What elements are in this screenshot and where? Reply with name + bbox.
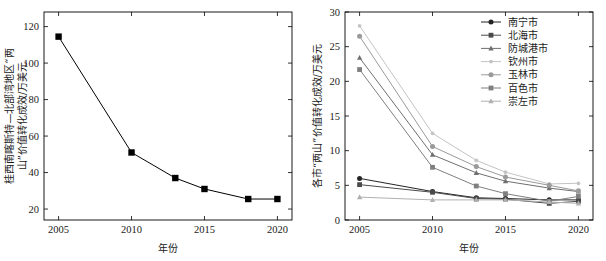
series-line xyxy=(360,70,579,202)
data-point-marker xyxy=(245,196,251,202)
data-point-marker xyxy=(576,194,581,199)
data-point-marker xyxy=(431,131,435,135)
legend-marker xyxy=(489,86,494,91)
y-tick-label: 80 xyxy=(29,94,40,105)
data-point-marker xyxy=(430,190,435,195)
left-x-ticklabels: 2005201020152020 xyxy=(48,224,288,235)
data-point-marker xyxy=(55,33,61,39)
series-line xyxy=(59,37,278,199)
y-tick-label: 15 xyxy=(330,111,341,122)
legend-marker xyxy=(489,60,493,64)
legend-marker xyxy=(489,33,494,38)
right-plot-svg: 051015202530 2005201020152020 年份 各市“两山”价… xyxy=(303,0,606,261)
x-tick-label: 2010 xyxy=(422,224,443,235)
y-tick-label: 10 xyxy=(330,145,341,156)
data-point-marker xyxy=(172,175,178,181)
x-tick-label: 2005 xyxy=(48,224,69,235)
y-tick-label: 30 xyxy=(330,7,341,18)
data-point-marker xyxy=(274,196,280,202)
legend-label: 南宁市 xyxy=(508,16,538,28)
series-2 xyxy=(357,55,581,194)
left-axes xyxy=(44,12,292,220)
series-0 xyxy=(55,33,280,202)
legend-label: 防城港市 xyxy=(508,42,548,54)
x-tick-label: 2015 xyxy=(194,224,215,235)
legend-item-0[interactable]: 南宁市 xyxy=(481,16,538,28)
data-point-marker xyxy=(357,176,362,181)
left-axes-frame xyxy=(44,12,292,220)
right-legend[interactable]: 南宁市北海市防城港市钦州市玉林市百色市崇左市 xyxy=(481,16,548,107)
data-point-marker xyxy=(474,184,479,189)
data-point-marker xyxy=(201,186,207,192)
data-point-marker xyxy=(577,181,581,185)
right-x-ticklabels: 2005201020152020 xyxy=(349,224,589,235)
legend-label: 钦州市 xyxy=(508,55,538,67)
y-tick-label: 40 xyxy=(29,167,40,178)
left-y-axis-title-line1: 桂西南喀斯特—北部湾地区“两 xyxy=(3,48,15,183)
y-tick-label: 60 xyxy=(29,131,40,142)
data-point-marker xyxy=(474,164,479,169)
data-point-marker xyxy=(503,174,508,179)
legend-item-5[interactable]: 百色市 xyxy=(481,82,538,94)
left-x-axis-title: 年份 xyxy=(158,242,178,254)
data-point-marker xyxy=(503,191,508,196)
data-point-marker xyxy=(547,183,552,188)
x-tick-label: 2010 xyxy=(121,224,142,235)
chart-panel-left: 20406080100120 2005201020152020 年份 桂西南喀斯… xyxy=(0,0,303,261)
data-point-marker xyxy=(357,67,362,72)
right-y-ticklabels: 051015202530 xyxy=(330,7,341,226)
left-plot-svg: 20406080100120 2005201020152020 年份 桂西南喀斯… xyxy=(0,0,303,261)
legend-marker xyxy=(488,19,493,24)
data-point-marker xyxy=(576,188,581,193)
series-line xyxy=(360,58,579,192)
x-tick-label: 2020 xyxy=(568,224,589,235)
y-tick-label: 0 xyxy=(335,215,340,226)
data-point-marker xyxy=(357,55,362,60)
figure-canvas: 20406080100120 2005201020152020 年份 桂西南喀斯… xyxy=(0,0,606,261)
right-x-axis-title: 年份 xyxy=(459,242,479,254)
data-point-marker xyxy=(358,24,362,28)
legend-label: 北海市 xyxy=(508,29,538,41)
series-line xyxy=(360,178,579,199)
legend-item-3[interactable]: 钦州市 xyxy=(481,55,538,67)
y-tick-label: 5 xyxy=(335,180,340,191)
legend-marker xyxy=(488,72,493,77)
y-tick-label: 120 xyxy=(23,21,39,32)
x-tick-label: 2020 xyxy=(267,224,288,235)
data-point-marker xyxy=(474,159,478,163)
data-point-marker xyxy=(357,34,362,39)
data-point-marker xyxy=(128,149,134,155)
legend-label: 百色市 xyxy=(508,82,538,94)
legend-item-4[interactable]: 玉林市 xyxy=(481,68,538,80)
chart-panel-right: 051015202530 2005201020152020 年份 各市“两山”价… xyxy=(303,0,606,261)
x-tick-label: 2015 xyxy=(495,224,516,235)
y-tick-label: 20 xyxy=(330,76,341,87)
left-y-ticks xyxy=(44,27,292,209)
left-y-axis-title-line2: 山”价值转化成效/万美元 xyxy=(16,62,28,171)
data-point-marker xyxy=(357,182,362,187)
legend-label: 崇左市 xyxy=(508,95,538,107)
data-point-marker xyxy=(430,144,435,149)
data-point-marker xyxy=(430,165,435,170)
legend-item-6[interactable]: 崇左市 xyxy=(481,95,538,107)
data-point-marker xyxy=(504,170,508,174)
legend-item-2[interactable]: 防城港市 xyxy=(481,42,548,54)
right-y-axis-title: 各市“两山”价值转化成效/万美元 xyxy=(311,44,323,188)
left-series-group xyxy=(55,33,280,202)
y-tick-label: 20 xyxy=(29,204,40,215)
legend-item-1[interactable]: 北海市 xyxy=(481,29,538,41)
left-x-ticks xyxy=(59,12,278,220)
y-tick-label: 25 xyxy=(330,41,341,52)
x-tick-label: 2005 xyxy=(349,224,370,235)
legend-label: 玉林市 xyxy=(508,68,538,80)
